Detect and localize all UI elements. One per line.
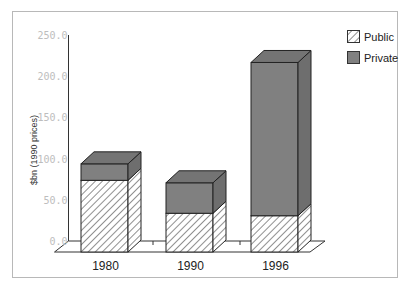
bar-segment-public-front (166, 213, 213, 252)
x-tick-labels: 198019901996 (92, 259, 289, 273)
y-tick-label: 250.0 (37, 30, 67, 41)
x-tick-label: 1990 (177, 259, 204, 273)
bar-segment-private-front (251, 62, 298, 215)
x-tick-label: 1996 (262, 259, 289, 273)
legend-swatch-public (348, 31, 360, 43)
y-tick-label: 150.0 (37, 112, 67, 123)
y-tick-label: 50.0 (43, 195, 67, 206)
y-tick-labels: 0.050.0100.0150.0200.0250.0 (37, 30, 67, 247)
bar-segment-public-front (81, 180, 128, 252)
chart: 0.050.0100.0150.0200.0250.0 198019901996… (0, 0, 404, 286)
bar-segment-private-front (81, 164, 128, 180)
legend-label-public: Public (364, 31, 394, 43)
legend: Public Private (348, 31, 399, 65)
bars (81, 50, 311, 252)
bar-stack (251, 50, 311, 252)
x-tick-label: 1980 (92, 259, 119, 273)
bar-segment-public-front (251, 216, 298, 252)
legend-swatch-private (348, 52, 360, 64)
y-tick-label: 0.0 (49, 236, 67, 247)
bar-stack (166, 171, 226, 252)
y-tick-label: 200.0 (37, 71, 67, 82)
y-axis-label: $bn (1990 prices) (29, 115, 39, 185)
bar-stack (81, 152, 141, 252)
legend-label-private: Private (364, 52, 398, 64)
bar-segment-private-front (166, 183, 213, 213)
y-tick-label: 100.0 (37, 154, 67, 165)
bar-segment-public-side (128, 168, 141, 252)
bar-segment-private-side (298, 50, 311, 215)
